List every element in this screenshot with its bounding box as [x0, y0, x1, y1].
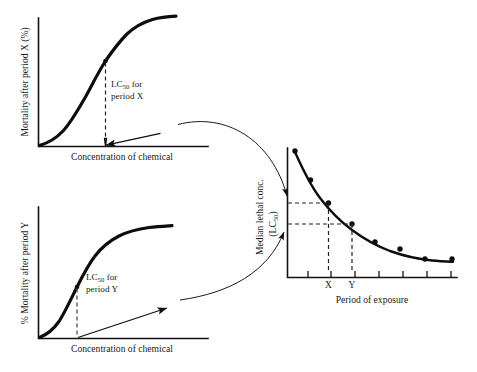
bottom-left-y-axis-label: % Mortality after period Y [19, 222, 30, 325]
right-tick-label-x: X [325, 280, 332, 290]
top-left-x-axis-label: Concentration of chemical [71, 151, 173, 162]
data-point-6 [397, 246, 402, 251]
top-left-lc50-annotation-line2: period X [111, 91, 144, 101]
data-point-2 [308, 177, 313, 182]
bottom-left-x-axis-label: Concentration of chemical [71, 343, 173, 354]
data-point-8 [449, 256, 454, 261]
right-x-axis-label: Period of exposure [336, 294, 408, 305]
data-point-1 [292, 148, 297, 153]
right-y-axis-label-line1: Median lethal conc. [254, 179, 265, 255]
figure-background [0, 0, 477, 372]
data-point-7 [422, 256, 427, 261]
bottom-left-lc50-annotation-line2: period Y [86, 284, 118, 294]
right-tick-label-y: Y [349, 280, 356, 290]
top-left-y-axis-label: Mortality after period X (%) [19, 27, 31, 136]
lc50-exposure-diagram: LC50 for period X Mortality after period… [0, 0, 477, 372]
right-y-axis-label-line2: (LC50) [267, 211, 279, 236]
data-point-5 [372, 239, 377, 244]
